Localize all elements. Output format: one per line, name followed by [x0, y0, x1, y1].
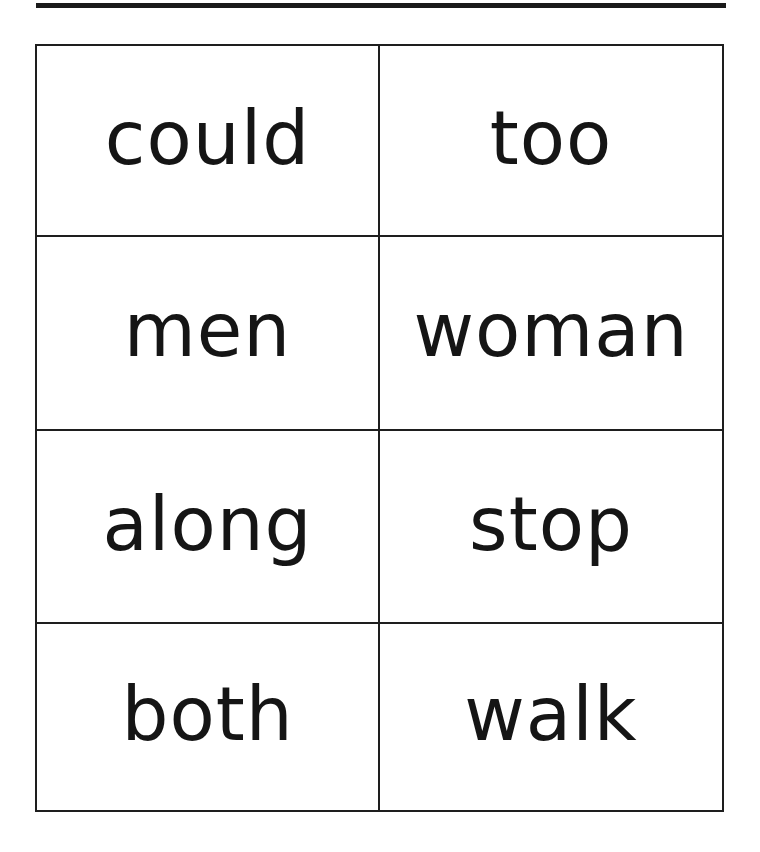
card-word: both [121, 677, 293, 757]
word-card: could [37, 46, 380, 237]
word-card: walk [380, 624, 722, 810]
card-word: walk [464, 677, 637, 757]
card-word: men [124, 293, 292, 373]
word-card: woman [380, 237, 722, 431]
card-word: could [105, 101, 310, 181]
word-card: too [380, 46, 722, 237]
card-word: along [102, 487, 312, 567]
word-card: men [37, 237, 380, 431]
word-card-grid: could too men woman along stop both walk [35, 44, 724, 812]
word-card: both [37, 624, 380, 810]
header-rule [36, 3, 726, 8]
card-word: too [490, 101, 613, 181]
card-word: stop [469, 487, 633, 567]
word-card: stop [380, 431, 722, 624]
word-card: along [37, 431, 380, 624]
card-word: woman [413, 293, 688, 373]
